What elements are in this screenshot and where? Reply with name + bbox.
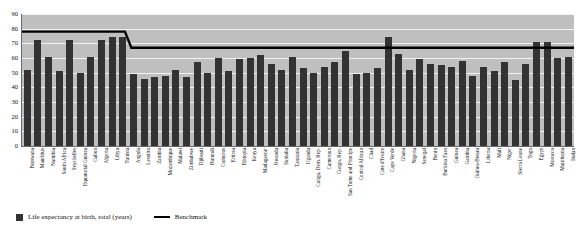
y-tick-label: 80 [12,26,19,33]
x-label-cell: Equatorial Guinea [75,148,86,210]
y-axis-tick-labels: 0102030405060708090 [0,14,20,146]
x-label-cell: Mauritius [33,148,44,210]
x-label-cell: Togo [521,148,532,210]
x-label-cell: Sao Tome and Principe [340,148,351,210]
x-label-cell: Burundi [202,148,213,210]
x-label-cell: Seychelles [64,148,75,210]
x-label-cell: Zimbabwe [181,148,192,210]
x-label-cell: Ethiopia [234,148,245,210]
x-label-cell: Sierra Leone [510,148,521,210]
y-tick-label: 90 [12,11,19,18]
x-label-cell: Guinea-Bissau [468,148,479,210]
x-label-cell: Gabon [86,148,97,210]
x-label-cell: Angola [128,148,139,210]
y-tick-label: 70 [12,40,19,47]
x-label-cell: South Africa [54,148,65,210]
x-label-cell: Egypt [531,148,542,210]
x-label-cell: Ghana [393,148,404,210]
x-label-cell: Senegal [415,148,426,210]
legend-label-series: Life expectancy at birth, total (years) [28,214,132,221]
benchmark-line [22,14,574,146]
x-axis-category-labels: BotswanaMauritiusNamibiaSouth AfricaSeyc… [22,148,574,210]
x-label-cell: Botswana [22,148,33,210]
x-label-cell: Somalia [277,148,288,210]
y-tick-label: 50 [12,70,19,77]
x-label-cell: Mali [489,148,500,210]
x-label-cell: Niger [499,148,510,210]
x-label-cell: Tunisia [117,148,128,210]
legend-item-series: Life expectancy at birth, total (years) [16,214,132,221]
x-label-cell: Cameroon [319,148,330,210]
x-label-cell: Namibia [43,148,54,210]
legend-swatch-line-icon [154,216,170,219]
x-label-cell: Tanzania [287,148,298,210]
y-tick-label: 10 [12,128,19,135]
benchmark-polyline [22,32,574,48]
x-label-cell: Rwanda [266,148,277,210]
x-label-cell: Eritrea [224,148,235,210]
x-label-cell: Guinea [446,148,457,210]
x-label-cell: Zambia [149,148,160,210]
x-label-cell: Mozambique [160,148,171,210]
x-label-cell: Nigeria [404,148,415,210]
x-label-cell: Cote d'Ivoire [372,148,383,210]
x-label-cell: Lesotho [139,148,150,210]
y-tick-label: 40 [12,84,19,91]
x-label-cell: Chad [362,148,373,210]
x-label-cell: Liberia [478,148,489,210]
y-tick-label: 30 [12,99,19,106]
x-label-cell: Madagascar [255,148,266,210]
x-label-cell: Congo, Dem. Rep. [308,148,319,210]
x-label-cell: Djibouti [192,148,203,210]
x-label-cell: Libya [107,148,118,210]
x-label-cell: Congo, Rep. [330,148,341,210]
y-tick-label: 0 [15,143,18,150]
x-label-cell: Uganda [298,148,309,210]
plot-region: 0102030405060708090 BotswanaMauritiusNam… [0,0,578,160]
x-label-cell: Central African [351,148,362,210]
legend-label-benchmark: Benchmark [175,214,207,221]
x-label-cell: Comoros [213,148,224,210]
x-label-cell: Morocco [542,148,553,210]
x-label-cell: Benin [425,148,436,210]
x-tick-label: Sudan [571,148,576,161]
x-label-cell: Sudan [563,148,574,210]
legend-swatch-bar-icon [16,214,23,221]
x-label-cell: Cape Verde [383,148,394,210]
x-label-cell: Mauritania [552,148,563,210]
legend-item-benchmark: Benchmark [154,214,207,221]
x-label-cell: Gambia [457,148,468,210]
y-tick-label: 20 [12,114,19,121]
x-label-cell: Burkina Faso [436,148,447,210]
life-expectancy-bar-chart: 0102030405060708090 BotswanaMauritiusNam… [0,0,578,228]
chart-legend: Life expectancy at birth, total (years) … [16,210,562,224]
y-tick-label: 60 [12,55,19,62]
x-label-cell: Malawi [171,148,182,210]
x-label-cell: Algeria [96,148,107,210]
x-label-cell: Kenya [245,148,256,210]
